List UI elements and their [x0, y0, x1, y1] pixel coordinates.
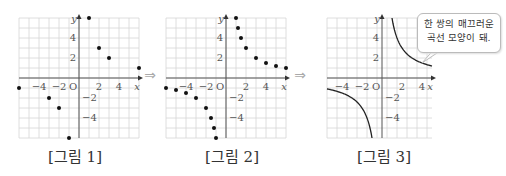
arrow-icon: ⇒	[144, 67, 156, 83]
bubble-line-1: 한 쌍의 매끄러운	[418, 17, 500, 31]
svg-text:4: 4	[373, 32, 379, 43]
svg-text:x: x	[427, 81, 433, 92]
svg-text:y: y	[373, 13, 380, 24]
svg-text:−2: −2	[355, 81, 370, 92]
graph-1: yxO−4−22442−2−4	[17, 13, 143, 140]
data-point	[214, 136, 218, 140]
data-point	[67, 136, 71, 140]
svg-text:−2: −2	[199, 81, 214, 92]
svg-text:−2: −2	[82, 92, 97, 103]
curve-branch-negative	[327, 89, 372, 138]
svg-text:4: 4	[70, 32, 76, 43]
arrow-icon: ⇒	[294, 67, 306, 83]
data-point	[87, 16, 91, 20]
svg-text:4: 4	[116, 81, 122, 92]
svg-text:y: y	[70, 13, 77, 24]
caption-figure-2: [그림 2]	[205, 145, 259, 166]
svg-text:O: O	[216, 81, 224, 92]
data-point	[236, 26, 240, 30]
graph-2: yxO−4−22442−2−4	[164, 13, 290, 140]
data-point	[57, 106, 61, 110]
data-point	[47, 96, 51, 100]
caption-figure-1: [그림 1]	[48, 145, 102, 166]
data-point	[174, 88, 178, 92]
data-point	[194, 96, 198, 100]
svg-text:y: y	[217, 13, 224, 24]
data-point	[264, 61, 268, 65]
speech-bubble: 한 쌍의 매끄러운 곡선 모양이 돼.	[417, 13, 501, 53]
data-point	[184, 91, 188, 95]
data-point	[204, 106, 208, 110]
data-point	[274, 64, 278, 68]
svg-text:2: 2	[373, 52, 379, 63]
data-point	[107, 56, 111, 60]
svg-text:−4: −4	[335, 81, 350, 92]
data-point	[137, 66, 141, 70]
svg-text:−2: −2	[52, 81, 67, 92]
svg-text:−2: −2	[385, 92, 400, 103]
svg-text:x: x	[281, 81, 287, 92]
data-point	[97, 46, 101, 50]
svg-text:−4: −4	[229, 112, 244, 123]
svg-text:4: 4	[217, 32, 223, 43]
svg-text:4: 4	[263, 81, 269, 92]
svg-text:2: 2	[243, 81, 249, 92]
svg-text:O: O	[372, 81, 380, 92]
data-point	[234, 16, 238, 20]
svg-text:4: 4	[419, 81, 425, 92]
svg-text:−4: −4	[32, 81, 47, 92]
data-point	[17, 86, 21, 90]
data-point	[239, 36, 243, 40]
data-point	[244, 46, 248, 50]
data-point	[254, 56, 258, 60]
svg-text:2: 2	[217, 52, 223, 63]
bubble-line-2: 곡선 모양이 돼.	[418, 31, 500, 45]
svg-text:2: 2	[399, 81, 405, 92]
svg-text:−4: −4	[82, 112, 97, 123]
data-point	[212, 126, 216, 130]
svg-text:−4: −4	[385, 112, 400, 123]
svg-text:x: x	[134, 81, 140, 92]
svg-text:−2: −2	[229, 92, 244, 103]
svg-text:O: O	[69, 81, 77, 92]
data-point	[209, 116, 213, 120]
data-point	[164, 86, 168, 90]
svg-text:−4: −4	[179, 81, 194, 92]
caption-figure-3: [그림 3]	[357, 145, 411, 166]
svg-text:2: 2	[70, 52, 76, 63]
svg-text:2: 2	[96, 81, 102, 92]
data-point	[284, 66, 288, 70]
